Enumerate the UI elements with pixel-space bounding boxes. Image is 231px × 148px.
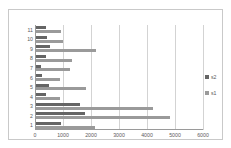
y-tick-label: 4	[17, 94, 33, 100]
bar-s2	[36, 112, 85, 115]
bar-s2	[36, 103, 80, 106]
bar-s1	[36, 30, 61, 33]
y-tick-label: 10	[17, 36, 33, 42]
x-tick-label: 0	[34, 132, 37, 139]
y-tick-label: 3	[17, 103, 33, 109]
bar-s2	[36, 122, 61, 125]
bar-s2	[36, 84, 49, 87]
bar-s2	[36, 36, 47, 39]
y-tick-label: 5	[17, 84, 33, 90]
bar-s1	[36, 59, 72, 62]
y-tick-label: 2	[17, 113, 33, 119]
bar-s2	[36, 55, 46, 58]
bar-group	[36, 101, 203, 111]
bar-s1	[36, 87, 86, 90]
legend-item-s1[interactable]: s1	[205, 88, 231, 97]
bar-rows	[36, 25, 203, 130]
bar-s1	[36, 40, 63, 43]
x-tick-label: 6000	[197, 132, 209, 139]
legend-item-s2[interactable]: s2	[205, 72, 231, 81]
y-tick-label: 8	[17, 55, 33, 61]
legend-swatch-icon	[205, 91, 209, 95]
bar-s1	[36, 107, 153, 110]
bar-s2	[36, 45, 50, 48]
bar-s1	[36, 49, 96, 52]
x-tick-label: 3000	[113, 132, 125, 139]
bar-group	[36, 63, 203, 73]
bar-group	[36, 44, 203, 54]
bar-group	[36, 35, 203, 45]
bar-s1	[36, 126, 95, 129]
bar-group	[36, 92, 203, 102]
y-tick-label: 11	[17, 27, 33, 33]
bar-s2	[36, 65, 41, 68]
y-tick-label: 6	[17, 75, 33, 81]
bar-group	[36, 82, 203, 92]
gridline-6000	[203, 25, 204, 130]
y-tick-label: 1	[17, 122, 33, 128]
y-axis-labels: 1234567891011	[17, 25, 33, 130]
x-tick-label: 2000	[85, 132, 97, 139]
x-tick-label: 1000	[57, 132, 69, 139]
legend-label: s2	[211, 74, 216, 80]
chart-legend: s2s1	[205, 72, 231, 104]
bar-s2	[36, 93, 46, 96]
legend-swatch-icon	[205, 75, 209, 79]
bar-group	[36, 111, 203, 121]
x-tick-label: 5000	[169, 132, 181, 139]
bar-group	[36, 120, 203, 130]
legend-label: s1	[211, 90, 216, 96]
bar-s1	[36, 116, 170, 119]
bar-s2	[36, 74, 42, 77]
bar-s2	[36, 26, 46, 29]
x-axis-labels: 0100020003000400050006000	[35, 132, 203, 142]
plot-area	[35, 25, 203, 130]
bar-group	[36, 54, 203, 64]
y-tick-label: 7	[17, 65, 33, 71]
bar-group	[36, 25, 203, 35]
bar-chart: 1234567891011 0100020003000400050006000 …	[0, 0, 231, 148]
bar-s1	[36, 97, 60, 100]
bar-s1	[36, 68, 70, 71]
bar-s1	[36, 78, 60, 81]
y-tick-label: 9	[17, 46, 33, 52]
x-tick-label: 4000	[141, 132, 153, 139]
chart-plot-frame: 1234567891011 0100020003000400050006000 …	[8, 9, 223, 140]
bar-group	[36, 73, 203, 83]
